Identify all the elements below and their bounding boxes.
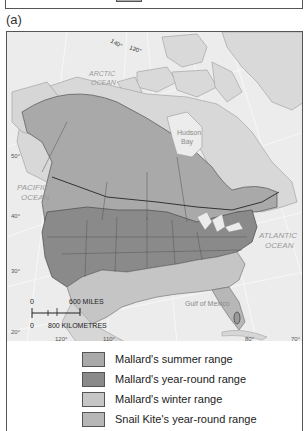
range-map: ARCTIC OCEAN PACIFIC OCEAN ATLANTIC OCEA… (6, 31, 303, 342)
legend-item-winter: Mallard's winter range (82, 391, 222, 407)
pacific-ocean-label: PACIFIC (17, 183, 48, 192)
previous-figure-frame (5, 0, 303, 9)
hudson-bay-label-2: Bay (181, 138, 194, 146)
hudson-bay-label: Hudson (177, 129, 201, 136)
scale-km-label: 800 KILOMETRES (48, 322, 107, 329)
scale-miles-zero: 0 (30, 298, 34, 305)
arctic-ocean-label: ARCTIC (88, 70, 116, 77)
latitude-40-label: 40° (11, 213, 21, 219)
panel-label: (a) (6, 12, 22, 27)
legend-label-winter: Mallard's winter range (115, 393, 222, 405)
legend-swatch-winter (82, 392, 105, 407)
legend-item-snail-kite: Snail Kite's year-round range (82, 411, 257, 427)
legend-label-summer: Mallard's summer range (115, 353, 233, 365)
atlantic-ocean-label: ATLANTIC (258, 231, 297, 240)
legend-item-summer: Mallard's summer range (82, 351, 233, 367)
previous-legend-swatch (116, 0, 142, 2)
map-legend: Mallard's summer range Mallard's year-ro… (6, 341, 303, 431)
legend-label-year-round: Mallard's year-round range (115, 373, 246, 385)
gulf-of-mexico-label: Gulf of Mexico (185, 300, 230, 307)
legend-swatch-summer (82, 352, 105, 367)
snail-kite-range (234, 312, 240, 324)
legend-swatch-snail-kite (82, 412, 105, 427)
legend-swatch-year-round (82, 372, 105, 387)
arctic-ocean-label-2: OCEAN (91, 79, 117, 86)
pacific-ocean-label-2: OCEAN (21, 193, 50, 202)
atlantic-ocean-label-2: OCEAN (265, 241, 294, 250)
scale-miles-label: 600 MILES (69, 298, 104, 305)
latitude-20-label: 20° (11, 329, 21, 335)
north-america-map: ARCTIC OCEAN PACIFIC OCEAN ATLANTIC OCEA… (7, 32, 303, 342)
scale-km-zero: 0 (30, 322, 34, 329)
latitude-50-label: 50° (11, 153, 21, 159)
legend-label-snail-kite: Snail Kite's year-round range (115, 413, 257, 425)
legend-item-year-round: Mallard's year-round range (82, 371, 246, 387)
latitude-30-label: 30° (11, 268, 21, 274)
